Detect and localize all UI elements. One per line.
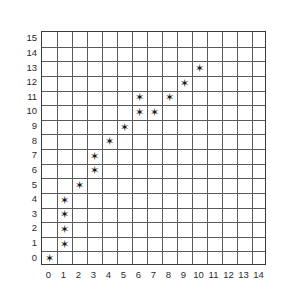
gridline-vertical: [192, 32, 193, 264]
gridline-vertical: [57, 32, 58, 264]
data-point: ✶: [90, 166, 99, 175]
data-point: ✶: [105, 137, 114, 146]
data-point: ✶: [60, 210, 69, 219]
gridline-vertical: [87, 32, 88, 264]
gridline-vertical: [162, 32, 163, 264]
data-point: ✶: [60, 196, 69, 205]
gridline-horizontal: [42, 164, 265, 165]
data-point: ✶: [45, 254, 54, 263]
data-point: ✶: [60, 225, 69, 234]
y-axis-tick-label: 13: [15, 63, 37, 73]
gridline-horizontal: [42, 193, 265, 194]
y-axis-tick-label: 9: [15, 121, 37, 131]
gridline-horizontal: [42, 178, 265, 179]
y-axis-tick-label: 15: [15, 33, 37, 43]
y-axis-tick-label: 8: [15, 136, 37, 146]
gridline-horizontal: [42, 208, 265, 209]
scatter-plot-chart: 0123456789101112131415 01234567891011121…: [0, 0, 295, 301]
gridline-vertical: [252, 32, 253, 264]
gridline-vertical: [237, 32, 238, 264]
y-axis-tick-label: 0: [15, 253, 37, 263]
gridline-horizontal: [42, 120, 265, 121]
gridline-vertical: [207, 32, 208, 264]
gridline-vertical: [177, 32, 178, 264]
x-axis-tick-label: 14: [249, 270, 269, 280]
data-point: ✶: [165, 93, 174, 102]
gridline-horizontal: [42, 91, 265, 92]
gridline-horizontal: [42, 76, 265, 77]
gridline-horizontal: [42, 237, 265, 238]
y-axis-tick-label: 11: [15, 92, 37, 102]
gridline-vertical: [117, 32, 118, 264]
data-point: ✶: [180, 79, 189, 88]
gridline-horizontal: [42, 222, 265, 223]
gridline-vertical: [102, 32, 103, 264]
y-axis-tick-label: 2: [15, 223, 37, 233]
plot-area: ✶✶✶✶✶✶✶✶✶✶✶✶✶✶✶✶: [41, 31, 266, 265]
gridline-horizontal: [42, 61, 265, 62]
y-axis-tick-label: 7: [15, 150, 37, 160]
y-axis-tick-label: 6: [15, 165, 37, 175]
gridline-vertical: [222, 32, 223, 264]
data-point: ✶: [75, 181, 84, 190]
gridline-horizontal: [42, 134, 265, 135]
data-point: ✶: [60, 240, 69, 249]
data-point: ✶: [135, 93, 144, 102]
data-point: ✶: [195, 64, 204, 73]
gridline-horizontal: [42, 251, 265, 252]
y-axis-tick-label: 3: [15, 209, 37, 219]
gridline-vertical: [132, 32, 133, 264]
y-axis-tick-label: 10: [15, 106, 37, 116]
gridline-vertical: [147, 32, 148, 264]
data-point: ✶: [150, 108, 159, 117]
gridline-horizontal: [42, 47, 265, 48]
y-axis-tick-label: 1: [15, 238, 37, 248]
data-point: ✶: [135, 108, 144, 117]
data-point: ✶: [90, 152, 99, 161]
gridline-vertical: [72, 32, 73, 264]
y-axis-tick-label: 5: [15, 180, 37, 190]
data-point: ✶: [120, 123, 129, 132]
y-axis-tick-label: 12: [15, 77, 37, 87]
y-axis-tick-label: 4: [15, 194, 37, 204]
gridline-horizontal: [42, 105, 265, 106]
gridline-horizontal: [42, 149, 265, 150]
y-axis-tick-label: 14: [15, 48, 37, 58]
